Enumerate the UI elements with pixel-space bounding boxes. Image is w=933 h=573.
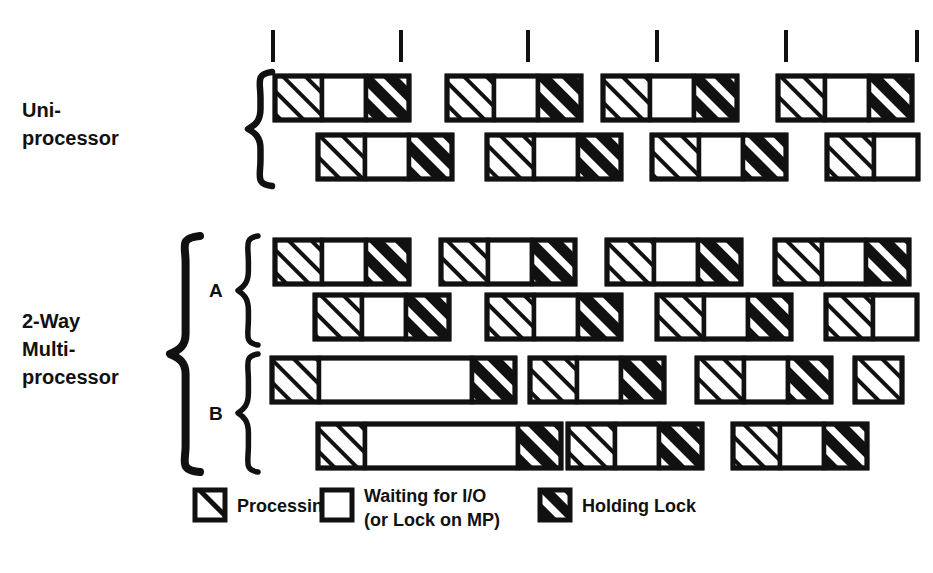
segment-waiting [822, 240, 866, 284]
thread-bar [318, 135, 452, 179]
segment-waiting [704, 295, 748, 339]
segment-holding-lock [409, 135, 452, 179]
segment-processing [315, 295, 362, 339]
segment-holding-lock [518, 424, 561, 468]
segment-waiting [874, 135, 918, 179]
segment-holding-lock [743, 135, 786, 179]
legend-label-waiting-line1: Waiting for I/O [364, 486, 486, 506]
thread-bar [827, 135, 918, 179]
segment-processing [652, 135, 699, 179]
thread-bar [318, 424, 561, 468]
segment-waiting [365, 135, 409, 179]
segment-waiting [699, 135, 743, 179]
segment-holding-lock [866, 240, 909, 284]
segment-holding-lock [472, 358, 515, 402]
thread-bar [530, 358, 664, 402]
thread-bar [441, 240, 575, 284]
segment-waiting [365, 424, 518, 468]
bar-row-1 [272, 358, 902, 402]
legend-label-holding_lock: Holding Lock [582, 496, 697, 516]
segment-holding-lock [532, 240, 575, 284]
multiprocessor-label-line3: processor [22, 366, 119, 388]
bar-row-2 [318, 135, 918, 179]
segment-waiting [534, 295, 578, 339]
segment-processing [733, 424, 780, 468]
segment-holding-lock [788, 358, 831, 402]
segment-processing [568, 424, 615, 468]
segment-waiting [362, 295, 406, 339]
segment-processing [657, 295, 704, 339]
segment-waiting [744, 358, 788, 402]
segment-holding-lock [621, 358, 664, 402]
segment-waiting [650, 76, 694, 120]
cpu-b-label: B [209, 403, 223, 424]
segment-holding-lock [406, 295, 449, 339]
segment-holding-lock [659, 424, 702, 468]
segment-processing [697, 358, 744, 402]
multiprocessor-label-line2: Multi- [22, 338, 75, 360]
cpu-a-label: A [209, 280, 223, 301]
segment-processing [530, 358, 577, 402]
segment-waiting [494, 76, 538, 120]
segment-processing [318, 424, 365, 468]
segment-holding-lock [698, 240, 741, 284]
segment-waiting [319, 358, 472, 402]
thread-bar [697, 358, 831, 402]
segment-processing [487, 295, 534, 339]
segment-waiting [615, 424, 659, 468]
legend-label-waiting-line2: (or Lock on MP) [364, 510, 500, 530]
segment-holding-lock [366, 76, 409, 120]
segment-processing [441, 240, 488, 284]
thread-bar [275, 76, 409, 120]
segment-holding-lock [824, 424, 867, 468]
segment-processing [607, 240, 654, 284]
legend-swatch-processing [195, 490, 225, 520]
thread-bar [272, 358, 515, 402]
segment-waiting [577, 358, 621, 402]
segment-processing [778, 76, 825, 120]
segment-waiting [780, 424, 824, 468]
multiprocessor-label-line1: 2-Way [22, 310, 81, 332]
thread-bar [447, 76, 581, 120]
segment-processing [275, 240, 322, 284]
thread-bar [568, 424, 702, 468]
timing-diagram-svg: Uni- processor 2-Way Multi- processor A … [0, 0, 933, 573]
segment-waiting [488, 240, 532, 284]
segment-processing [272, 358, 319, 402]
thread-bar [275, 240, 409, 284]
diagram-stage: Uni- processor 2-Way Multi- processor A … [0, 0, 933, 573]
segment-holding-lock [869, 76, 912, 120]
segment-holding-lock [578, 295, 621, 339]
segment-holding-lock [538, 76, 581, 120]
bar-row-2 [318, 424, 867, 468]
segment-waiting [322, 76, 366, 120]
thread-bar [826, 295, 917, 339]
thread-bar [607, 240, 741, 284]
segment-processing [447, 76, 494, 120]
segment-processing [855, 358, 902, 402]
thread-bar [778, 76, 912, 120]
thread-bar [657, 295, 791, 339]
thread-bar [855, 358, 902, 402]
segment-processing [826, 295, 873, 339]
thread-bar [733, 424, 867, 468]
segment-waiting [873, 295, 917, 339]
segment-processing [487, 135, 534, 179]
segment-holding-lock [694, 76, 737, 120]
bar-row-2 [315, 295, 917, 339]
thread-bar [603, 76, 737, 120]
segment-waiting [654, 240, 698, 284]
thread-bar [775, 240, 909, 284]
segment-processing [318, 135, 365, 179]
uniprocessor-label-line1: Uni- [22, 99, 61, 121]
segment-processing [275, 76, 322, 120]
segment-waiting [825, 76, 869, 120]
segment-processing [603, 76, 650, 120]
segment-holding-lock [366, 240, 409, 284]
segment-processing [775, 240, 822, 284]
thread-bar [487, 135, 621, 179]
segment-holding-lock [748, 295, 791, 339]
segment-waiting [534, 135, 578, 179]
thread-bar [315, 295, 449, 339]
legend-label-processing: Processing [237, 496, 334, 516]
